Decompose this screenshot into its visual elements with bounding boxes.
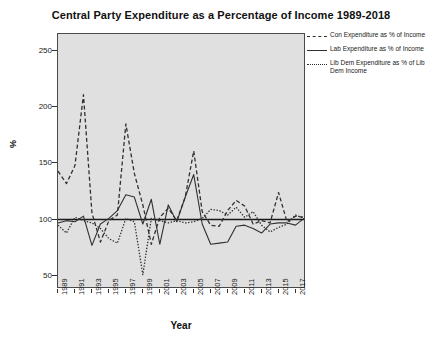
legend-item: Lib Dem Expenditure as % of Lib Dem Inco… (307, 59, 440, 74)
chart-title: Central Party Expenditure as a Percentag… (0, 9, 442, 21)
x-tick-label: 2011 (247, 279, 256, 295)
plot-area (57, 33, 305, 288)
x-tick-label: 1993 (94, 278, 103, 295)
x-tick-label: 2015 (281, 278, 290, 295)
y-tick-label: 200 (39, 102, 52, 111)
x-tick-label: 1991 (77, 278, 86, 295)
legend-item: Lab Expenditure as % of Income (307, 45, 440, 56)
x-tick-mark (295, 289, 296, 293)
series-line-2 (58, 207, 304, 274)
x-tick-label: 2017 (298, 278, 307, 295)
x-tick-mark (57, 289, 58, 293)
legend-line-swatch-dashed (307, 31, 327, 42)
x-tick-mark (159, 289, 160, 293)
x-tick-mark (142, 289, 143, 293)
x-tick-label: 2007 (213, 278, 222, 295)
x-tick-label: 2013 (264, 278, 273, 295)
y-tick-label: 50 (43, 270, 52, 279)
x-tick-label: 1989 (60, 278, 69, 295)
x-tick-mark (125, 289, 126, 293)
x-tick-mark (261, 289, 262, 293)
x-tick-mark (108, 289, 109, 293)
legend-line-swatch-solid (307, 45, 327, 56)
series-line-0 (58, 95, 304, 245)
y-tick-label: 100 (39, 214, 52, 223)
x-axis-ticks: 1989199119931995199719992001200320052007… (57, 289, 305, 321)
x-tick-mark (210, 289, 211, 293)
y-tick-label: 150 (39, 158, 52, 167)
chart-container: Central Party Expenditure as a Percentag… (0, 0, 442, 341)
series-line-1 (58, 175, 304, 246)
x-tick-mark (74, 289, 75, 293)
legend-line-swatch-dotted (307, 59, 327, 70)
y-tick-label: 250 (39, 45, 52, 54)
legend-item: Con Expenditure as % of Income (307, 31, 440, 42)
x-tick-mark (91, 289, 92, 293)
x-tick-label: 1997 (128, 278, 137, 295)
x-tick-label: 1999 (145, 278, 154, 295)
x-tick-label: 1995 (111, 278, 120, 295)
x-tick-mark (193, 289, 194, 293)
x-tick-label: 2003 (179, 278, 188, 295)
legend-item-label: Lab Expenditure as % of Income (330, 45, 424, 53)
x-tick-label: 2005 (196, 278, 205, 295)
x-tick-mark (176, 289, 177, 293)
x-tick-mark (244, 289, 245, 293)
x-tick-mark (278, 289, 279, 293)
y-axis-ticks: 50100150200250 (24, 33, 52, 288)
series-lines (58, 34, 304, 287)
legend-item-label: Lib Dem Expenditure as % of Lib Dem Inco… (330, 59, 436, 74)
chart-legend: Con Expenditure as % of IncomeLab Expend… (307, 31, 440, 77)
x-tick-mark (227, 289, 228, 293)
legend-item-label: Con Expenditure as % of Income (330, 31, 425, 39)
x-tick-label: 2001 (162, 278, 171, 295)
x-axis-label: Year (57, 320, 305, 331)
y-axis-label: % (8, 140, 18, 148)
x-tick-label: 2009 (230, 278, 239, 295)
